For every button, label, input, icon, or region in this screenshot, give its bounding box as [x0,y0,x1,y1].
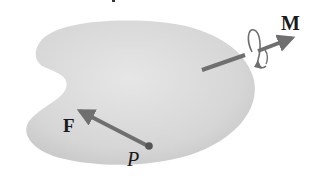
cropped-mark [112,0,115,2]
force-label: F [63,115,75,137]
rigid-body-diagram: M F P [0,0,318,176]
point-label: P [127,148,139,171]
point-p-marker [145,142,153,150]
curl-arrowhead-icon [254,60,262,69]
moment-label: M [281,12,300,35]
diagram-canvas [0,0,318,176]
